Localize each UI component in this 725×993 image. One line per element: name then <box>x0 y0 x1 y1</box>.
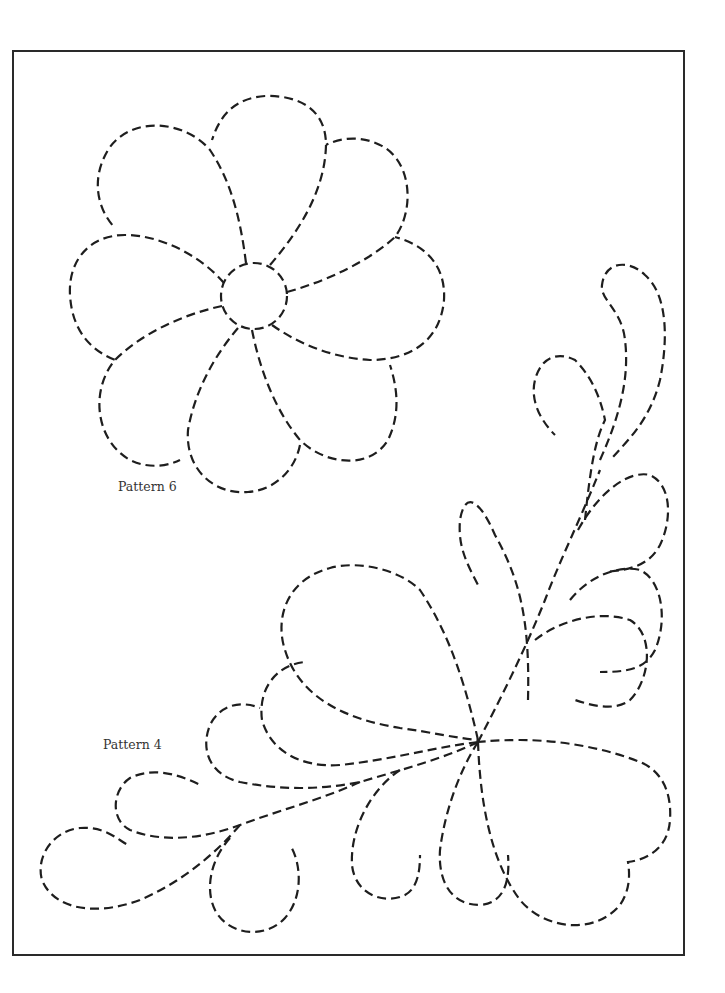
flower-petal <box>212 96 326 265</box>
feather-plume <box>206 704 478 788</box>
flower-petal <box>272 237 444 360</box>
flower-center <box>221 263 287 329</box>
feather-plume <box>600 265 665 460</box>
feather-plume <box>578 474 668 572</box>
pattern-6-flower <box>70 96 444 492</box>
pattern-4-label: Pattern 4 <box>103 737 162 752</box>
flower-petal <box>188 328 300 492</box>
feather-plume <box>261 662 478 765</box>
quilting-templates <box>0 0 725 993</box>
feather-plume <box>460 502 529 700</box>
flower-petal <box>98 126 246 263</box>
feather-plume <box>352 770 420 899</box>
pattern-4-feather <box>41 265 671 932</box>
feather-plume <box>534 356 605 520</box>
feather-plume <box>210 838 299 932</box>
feather-plume <box>281 565 478 740</box>
flower-petal <box>99 306 222 466</box>
feather-plume <box>478 740 670 925</box>
feather-plume <box>440 742 509 905</box>
feather-plume <box>535 616 647 707</box>
feather-plume <box>570 569 662 672</box>
pattern-6-label: Pattern 6 <box>118 479 177 494</box>
flower-petal <box>252 330 397 461</box>
flower-petal <box>70 235 224 360</box>
